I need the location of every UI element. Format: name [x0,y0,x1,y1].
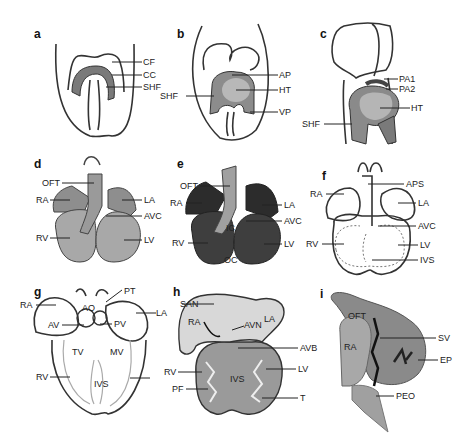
structure-label: RV [36,372,48,382]
left-atrium [106,301,148,340]
panel-letter-b: b [177,27,184,41]
structure-label: OC [224,255,238,265]
neural-groove [89,80,100,130]
structure-label: PF [172,384,184,394]
structure-label: SHF [160,91,179,101]
structure-label: LA [264,314,275,324]
panel-e: e IC OC OFT RA LA AVC RV LV [170,157,302,265]
panel-letter-g: g [34,285,41,299]
structure-label: PA1 [399,74,415,84]
structure-label: AO [82,303,95,313]
structure-label: PT [124,286,136,296]
structure-label: OFT [180,181,198,191]
structure-label: LV [144,235,154,245]
structure-label: RA [310,189,323,199]
structure-label: CC [143,70,156,80]
structure-label: PA2 [399,84,415,94]
head-outline [332,23,392,78]
structure-label: AV [48,320,59,330]
structure-label: LA [144,195,155,205]
leader-line [106,290,122,302]
structure-label: TV [72,347,84,357]
structure-label: AVN [244,320,262,330]
structure-label: LV [420,240,430,250]
structure-label: IVS [420,255,435,265]
structure-label: RA [36,195,49,205]
structure-label: IVS [230,374,245,384]
panel-a: a CF CC SHF [34,27,162,137]
structure-label: PV [114,319,126,329]
panel-d: d OFT RA LA AVC RV LV [34,157,162,262]
panel-letter-f: f [322,169,327,183]
structure-label: RV [36,233,48,243]
panel-h: h SAN RA AVN LA AVB RV LV IVS PF T [164,285,317,414]
structure-label: RV [172,238,184,248]
panel-b: b AP HT SHF VP [160,24,291,140]
structure-label: OFT [42,178,60,188]
panel-letter-a: a [34,27,41,41]
structure-label: AVC [418,221,436,231]
panel-c: c PA1 PA2 HT SHF [302,23,423,144]
proepicardial-organ [352,385,388,432]
structure-label: HT [279,85,291,95]
structure-label: IC [226,223,236,233]
structure-label: RV [164,367,176,377]
structure-label: SHF [302,119,321,129]
structure-label: AP [279,70,291,80]
structure-label: PEO [396,391,415,401]
panel-g: g PT RA AO LA AV PV TV MV RV IVS [20,285,167,414]
left-ventricle [96,212,140,262]
structure-label: RA [188,317,201,327]
structure-label: LA [156,308,167,318]
structure-label: VP [279,107,291,117]
pharyngeal-arteries [84,157,100,165]
structure-label: CF [143,57,155,67]
structure-label: OFT [348,311,366,321]
right-atrium [53,186,90,212]
structure-label: RA [170,198,183,208]
structure-label: SAN [180,299,199,309]
structure-label: RV [306,239,318,249]
cardiac-crescent [72,66,114,100]
structure-label: RA [344,342,357,352]
panel-f: f APS RA LA AVC RV LV IVS [306,163,436,274]
left-atrium [108,188,136,216]
structure-label: AVB [300,343,317,353]
structure-label: LV [298,364,308,374]
panel-letter-h: h [173,285,180,299]
structure-label: MV [110,347,124,357]
left-atrium [246,184,278,218]
structure-label: RA [20,300,33,310]
panel-letter-e: e [177,157,184,171]
panel-letter-d: d [34,157,41,171]
structure-label: APS [406,179,424,189]
structure-label: SHF [143,82,162,92]
structure-label: LV [284,239,294,249]
heart-development-figure: a CF CC SHF b AP HT SHF VP c PA1 PA2 HT … [0,0,472,448]
head-folds [203,44,259,70]
structure-label: T [300,393,306,403]
structure-label: AVC [284,216,302,226]
panel-letter-c: c [320,27,327,41]
structure-label: EP [440,355,452,365]
structure-label: HT [411,103,423,113]
panel-letter-i: i [320,287,323,301]
structure-label: LA [418,198,429,208]
structure-label: SV [438,333,450,343]
structure-label: IVS [94,379,109,389]
structure-label: LA [284,200,295,210]
structure-label: AVC [144,211,162,221]
panel-i: i OFT SV RA EP PEO [320,287,452,432]
